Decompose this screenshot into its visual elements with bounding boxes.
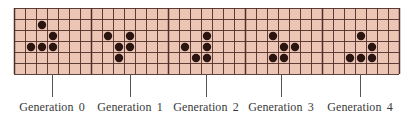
live-cell-dot [269,32,277,40]
live-cell-dot [357,32,365,40]
live-cell-dot [203,43,211,51]
live-cell-dot [49,32,57,40]
live-cell-dot [357,54,365,62]
live-cell-dot [38,21,46,29]
live-cell-dot [368,54,376,62]
live-cell-dot [269,54,277,62]
live-cell-dot [192,54,200,62]
live-cell-dot [38,43,46,51]
generation-2-label: Generation 2 [166,100,246,115]
grid-background [14,8,399,74]
live-cell-dot [203,32,211,40]
generation-1-label: Generation 1 [90,100,170,115]
generation-4-label: Generation 4 [320,100,400,115]
generation-0-label: Generation 0 [12,100,92,115]
live-cell-dot [126,43,134,51]
live-cell-dot [49,43,57,51]
live-cell-dot [126,32,134,40]
live-cell-dot [280,43,288,51]
live-cell-dot [203,54,211,62]
live-cell-dot [181,43,189,51]
live-cell-dot [280,54,288,62]
live-cell-dot [115,54,123,62]
generation-3-label: Generation 3 [241,100,321,115]
live-cell-dot [291,43,299,51]
live-cell-dot [27,43,35,51]
live-cell-dot [346,54,354,62]
game-of-life-glider-figure: Generation 0 Generation 1 Generation 2 G… [0,0,411,121]
live-cell-dot [368,43,376,51]
live-cell-dot [115,43,123,51]
live-cell-dot [104,32,112,40]
